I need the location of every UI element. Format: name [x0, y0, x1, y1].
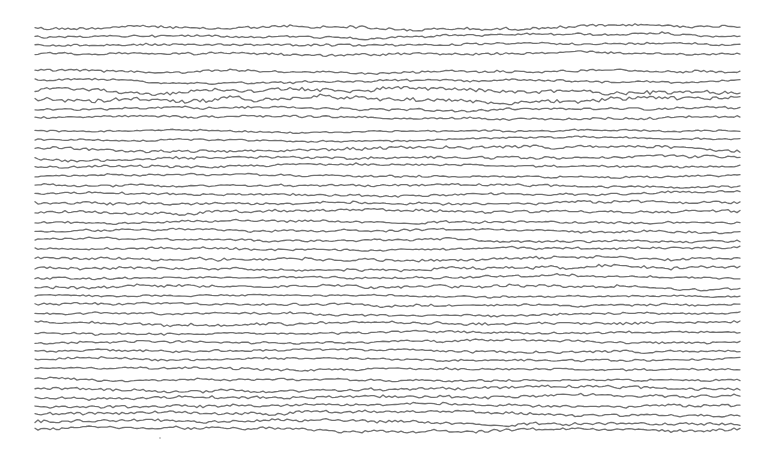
- trace-line: [35, 163, 740, 168]
- trace-line: [35, 32, 740, 40]
- trace-line: [35, 237, 740, 243]
- trace-line: [35, 357, 740, 362]
- trace-line: [35, 426, 740, 433]
- trace-line: [35, 410, 740, 417]
- trace-line: [35, 274, 740, 280]
- trace-line: [35, 219, 740, 224]
- trace-line: [35, 42, 740, 46]
- trace-line: [35, 184, 740, 189]
- waveform-plot: [0, 0, 768, 451]
- trace-line: [35, 377, 740, 382]
- stray-dot: [159, 437, 161, 439]
- trace-line: [35, 155, 740, 162]
- trace-line: [35, 87, 740, 96]
- trace-line: [35, 402, 740, 408]
- trace-line: [35, 51, 740, 56]
- trace-line: [35, 69, 740, 74]
- trace-line: [35, 294, 740, 298]
- trace-group: [35, 24, 740, 433]
- trace-line: [35, 349, 740, 354]
- trace-line: [35, 106, 740, 112]
- trace-line: [35, 419, 740, 427]
- trace-line: [35, 136, 740, 142]
- trace-line: [35, 339, 740, 344]
- trace-line: [35, 284, 740, 291]
- trace-line: [35, 302, 740, 307]
- trace-line: [35, 321, 740, 327]
- trace-line: [35, 209, 740, 216]
- trace-line: [35, 200, 740, 205]
- trace-line: [35, 367, 740, 371]
- trace-line: [35, 173, 740, 178]
- trace-line: [35, 115, 740, 120]
- trace-line: [35, 129, 740, 133]
- trace-line: [35, 312, 740, 317]
- trace-line: [35, 145, 740, 153]
- trace-line: [35, 24, 740, 31]
- trace-line: [35, 94, 740, 104]
- trace-line: [35, 191, 740, 198]
- trace-line: [35, 228, 740, 233]
- trace-line: [35, 256, 740, 262]
- trace-line: [35, 78, 740, 84]
- trace-line: [35, 246, 740, 251]
- trace-line: [35, 264, 740, 271]
- trace-line: [35, 393, 740, 400]
- trace-line: [35, 385, 740, 393]
- trace-line: [35, 331, 740, 336]
